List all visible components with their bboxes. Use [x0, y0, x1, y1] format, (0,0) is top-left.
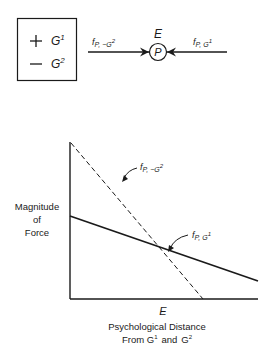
position-e-label: E — [154, 27, 163, 41]
force-diagram: P E fP, −G2 fP, G1 — [88, 27, 227, 61]
legend-box: G1 G2 — [18, 19, 77, 81]
xlabel-line-1: Psychological Distance — [108, 321, 206, 332]
xlabel-line-2: From G1andG2 — [122, 334, 193, 345]
annotation-pos-label: fP, G1 — [192, 230, 211, 241]
right-force-label: fP, G1 — [193, 37, 212, 48]
series-neg-g2-line — [71, 143, 203, 299]
x-tick-e: E — [159, 305, 167, 317]
left-force-label: fP, −G2 — [92, 37, 116, 48]
legend-g2: G2 — [51, 56, 65, 71]
ylabel-line-2: of — [33, 214, 41, 225]
series-g1-line — [70, 216, 258, 281]
force-chart: fP, −G2 fP, G1 Magnitude of Force E Psyc… — [15, 142, 258, 345]
annotation-arrow-pos — [170, 235, 188, 249]
point-p-label: P — [154, 46, 162, 58]
diagram-canvas: G1 G2 P E fP, −G2 fP, G1 fP, −G2 fP, G1 … — [0, 0, 279, 354]
annotation-arrow-neg — [124, 168, 137, 178]
legend-g1: G1 — [51, 33, 65, 48]
plus-icon — [30, 35, 42, 47]
annotation-neg-label: fP, −G2 — [140, 162, 164, 173]
ylabel-line-3: Force — [25, 227, 49, 238]
ylabel-line-1: Magnitude — [15, 201, 59, 212]
